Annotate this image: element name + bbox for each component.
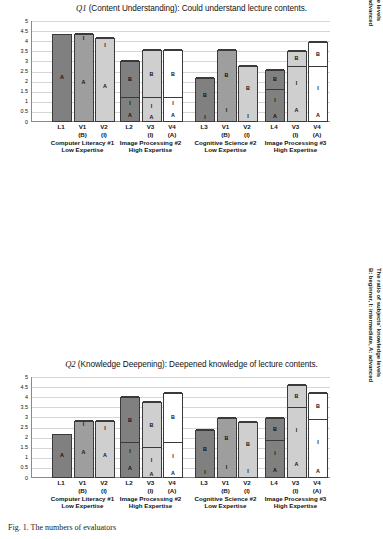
bar-segment-i: I bbox=[239, 466, 257, 477]
bar-segment-a: A bbox=[96, 52, 114, 121]
bar-l4-g3: AIB bbox=[265, 418, 285, 478]
bar-v4-g1: AIB bbox=[163, 393, 183, 478]
bar-segment-i: I bbox=[309, 66, 327, 109]
x-level-v3-g1: (I) bbox=[141, 131, 161, 138]
x-tick-l4-g3: L4 bbox=[264, 123, 284, 130]
chart-title-q2: Q2 (Knowledge Deepening): Deepened knowl… bbox=[0, 359, 383, 370]
x-tick-v2-g0: V2 bbox=[94, 123, 114, 130]
x-tick-l3-g2: L3 bbox=[194, 123, 214, 130]
bar-segment-b: B bbox=[309, 41, 327, 66]
x-tick-l2-g1: L2 bbox=[119, 479, 139, 486]
bar-segment-i: I bbox=[266, 89, 284, 111]
x-level-v1-g2: (B) bbox=[216, 487, 236, 494]
y-tick-label: 5 bbox=[12, 375, 28, 380]
bar-segment-a: A bbox=[75, 427, 93, 477]
bar-segment-b: B bbox=[309, 392, 327, 420]
y-tick-label: 1 bbox=[12, 455, 28, 460]
group-name: Image Processing #3 bbox=[251, 495, 341, 502]
bar-segment-i: I bbox=[309, 419, 327, 464]
chart-title-text: (Knowledge Deepening): Deepened knowledg… bbox=[78, 360, 318, 369]
group-expertise: High Expertise bbox=[251, 146, 341, 153]
bar-segment-b: B bbox=[164, 392, 182, 443]
x-tick-v4-g3: V4 bbox=[307, 123, 327, 130]
bar-segment-i: I bbox=[239, 111, 257, 122]
chart-q2: Q2 (Knowledge Deepening): Deepened knowl… bbox=[0, 356, 383, 534]
x-tick-l1-g0: L1 bbox=[51, 479, 71, 486]
x-tick-v1-g0: V1 bbox=[73, 479, 93, 486]
legend-line-1: The ratio of subjects' knowledge levels bbox=[375, 268, 383, 398]
x-tick-v4-g3: V4 bbox=[307, 479, 327, 486]
gridline bbox=[32, 21, 330, 22]
bar-segment-i: I bbox=[96, 420, 114, 433]
bar-segment-i: I bbox=[164, 442, 182, 469]
bar-l2-g1: AIB bbox=[120, 61, 140, 122]
bar-l3-g2: IB bbox=[195, 430, 215, 478]
y-tick-label: 0 bbox=[12, 120, 28, 125]
bar-segment-a: A bbox=[53, 33, 71, 121]
bar-l3-g2: IB bbox=[195, 78, 215, 122]
bar-v4-g3: AIB bbox=[308, 393, 328, 478]
x-tick-v1-g2: V1 bbox=[216, 123, 236, 130]
plot-wrapper: Average User Rating00.511.522.533.544.55… bbox=[0, 372, 383, 534]
y-tick-label: 1.5 bbox=[12, 445, 28, 450]
bar-segment-b: B bbox=[121, 60, 139, 97]
bar-segment-i: I bbox=[143, 447, 161, 471]
bar-segment-b: B bbox=[143, 401, 161, 447]
bar-segment-a: A bbox=[121, 459, 139, 477]
bar-segment-b: B bbox=[164, 49, 182, 96]
bar-v3-g1: AIB bbox=[142, 50, 162, 122]
bar-segment-a: A bbox=[143, 114, 161, 121]
bar-segment-i: I bbox=[196, 467, 214, 477]
plot-area: AAIAIAIBAIBAIBIBIBIBAIBAIBAIB bbox=[31, 21, 330, 122]
plot-wrapper: Average User Rating00.511.522.533.544.55… bbox=[0, 16, 383, 178]
x-level-v1-g2: (B) bbox=[216, 131, 236, 138]
y-tick-label: 4 bbox=[12, 39, 28, 44]
bar-segment-i: I bbox=[218, 99, 236, 121]
bar-segment-i: I bbox=[196, 113, 214, 121]
x-level-v2-g2: (I) bbox=[237, 131, 257, 138]
bar-v3-g1: AIB bbox=[142, 402, 162, 478]
gridline bbox=[32, 387, 330, 388]
bar-segment-b: B bbox=[266, 417, 284, 440]
group-label-3: Image Processing #3High Expertise bbox=[251, 495, 341, 510]
bar-segment-i: I bbox=[121, 442, 139, 459]
x-level-v3-g3: (I) bbox=[286, 131, 306, 138]
bar-segment-a: A bbox=[164, 469, 182, 477]
y-tick-label: 4 bbox=[12, 395, 28, 400]
bar-l4-g3: AIB bbox=[265, 70, 285, 122]
x-level-v1-g0: (B) bbox=[73, 131, 93, 138]
x-tick-v2-g2: V2 bbox=[237, 123, 257, 130]
bar-segment-b: B bbox=[218, 417, 236, 456]
y-tick-label: 5 bbox=[12, 19, 28, 24]
bar-segment-a: A bbox=[143, 471, 161, 477]
bar-v3-g3: AIB bbox=[287, 385, 307, 478]
x-tick-v3-g1: V3 bbox=[141, 479, 161, 486]
x-level-v3-g1: (I) bbox=[141, 487, 161, 494]
x-level-v4-g1: (A) bbox=[162, 131, 182, 138]
bar-segment-a: A bbox=[75, 42, 93, 121]
bar-segment-b: B bbox=[196, 429, 214, 467]
x-tick-v4-g1: V4 bbox=[162, 479, 182, 486]
x-level-v2-g0: (I) bbox=[94, 487, 114, 494]
bar-segment-b: B bbox=[288, 384, 306, 407]
bar-segment-a: A bbox=[164, 109, 182, 121]
x-level-v4-g3: (A) bbox=[307, 487, 327, 494]
y-tick-label: 2.5 bbox=[12, 425, 28, 430]
bar-segment-a: A bbox=[53, 433, 71, 477]
x-tick-v3-g3: V3 bbox=[286, 123, 306, 130]
y-tick-label: 1 bbox=[12, 99, 28, 104]
x-tick-v1-g2: V1 bbox=[216, 479, 236, 486]
legend-line-2: B: beginner, I: intermediate, A: advance… bbox=[367, 268, 375, 398]
chart-q1: Q1 (Content Understanding): Could unders… bbox=[0, 0, 383, 178]
bar-segment-a: A bbox=[309, 464, 327, 477]
bar-segment-a: A bbox=[288, 100, 306, 121]
bar-v2-g0: AI bbox=[95, 421, 115, 478]
chart-title-code: Q1 bbox=[76, 3, 86, 13]
y-tick-label: 2.5 bbox=[12, 69, 28, 74]
x-tick-v2-g2: V2 bbox=[237, 479, 257, 486]
x-tick-l4-g3: L4 bbox=[264, 479, 284, 486]
bar-segment-b: B bbox=[239, 421, 257, 466]
plot-area: AAIAIAIBAIBAIBIBIBIBAIBAIBAIB bbox=[31, 377, 330, 478]
bar-v4-g1: AIB bbox=[163, 50, 183, 122]
y-tick-label: 0.5 bbox=[12, 465, 28, 470]
